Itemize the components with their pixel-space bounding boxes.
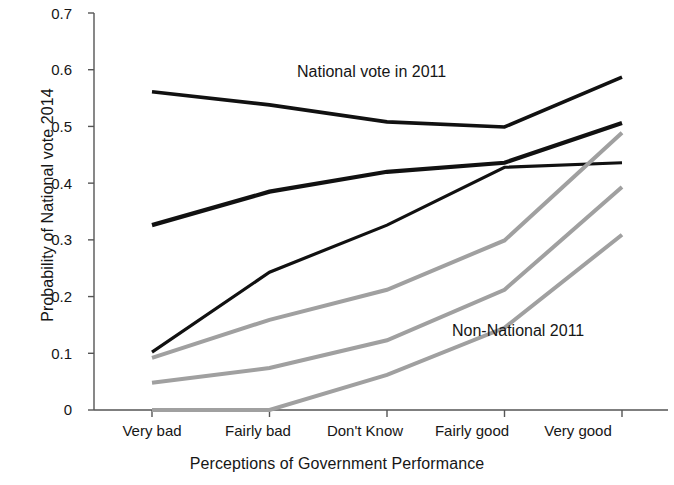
xtick-label-fairly-bad: Fairly bad bbox=[198, 422, 318, 439]
xtick-label-very-bad: Very bad bbox=[92, 422, 212, 439]
ytick-label-0: 0 bbox=[14, 401, 72, 418]
chart-series bbox=[152, 77, 622, 410]
xtick-label-fairly-good: Fairly good bbox=[412, 422, 532, 439]
annotation-national-vote-2011: National vote in 2011 bbox=[297, 63, 446, 81]
xtick-label-very-good: Very good bbox=[518, 422, 638, 439]
x-axis-title: Perceptions of Government Performance bbox=[0, 455, 674, 473]
series-line-4 bbox=[152, 187, 622, 383]
ytick-label-0-7: 0.7 bbox=[14, 5, 72, 22]
xtick-label-dont-know: Don't Know bbox=[305, 422, 425, 439]
series-line-1 bbox=[152, 123, 622, 225]
series-line-0 bbox=[152, 77, 622, 127]
annotation-non-national-2011: Non-National 2011 bbox=[452, 322, 584, 340]
chart-figure: 0.7 0.6 0.5 0.4 0.3 0.2 0.1 0 Very bad F… bbox=[0, 0, 674, 485]
y-axis-title: Probability of National vote 2014 bbox=[39, 35, 57, 375]
